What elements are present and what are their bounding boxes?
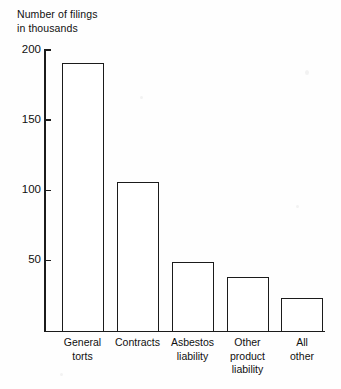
chart-title-line-1: Number of filings [17,8,97,20]
x-axis-label-line: General [64,336,101,348]
x-axis-label-line: All [296,336,308,348]
x-axis-label-line: liability [232,363,264,375]
y-tick-label: 200 [0,43,41,55]
x-axis-label-line: Other [234,336,260,348]
x-axis-label-line: Asbestos [171,336,214,348]
chart-title-line-2: in thousands [17,22,78,34]
y-axis-line [44,50,46,332]
scan-speckle [140,96,143,99]
bar-4 [227,277,269,332]
x-axis-label-line: other [290,350,314,362]
scan-speckle [296,205,299,208]
bar-1 [62,63,104,333]
x-axis-label-line: Contracts [115,336,160,348]
chart-title: Number of filingsin thousands [17,8,97,35]
x-axis-label-line: liability [177,350,209,362]
y-tick-mark [44,260,51,261]
y-tick-label: 150 [0,113,41,125]
x-axis-label-line: torts [72,350,92,362]
y-tick-mark [44,49,51,50]
scan-speckle [60,373,63,376]
y-tick-mark [44,190,51,191]
x-axis-label-line: product [230,350,265,362]
y-tick-label: 100 [0,183,41,195]
y-tick-label: 50 [0,253,41,265]
bar-5 [281,298,323,332]
bar-3 [172,262,214,332]
x-axis-label-5: Allother [268,336,336,363]
scan-speckle [305,70,309,75]
y-tick-mark [44,119,51,120]
bar-2 [117,182,159,332]
bar-chart-figure: Number of filingsin thousands 5010015020… [0,0,341,389]
